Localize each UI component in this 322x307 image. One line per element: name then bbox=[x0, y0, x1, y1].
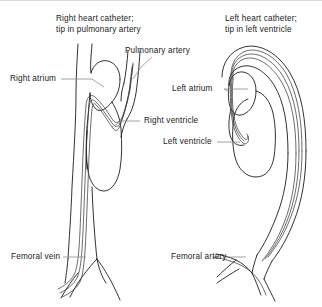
label-left-atrium: Left atrium bbox=[172, 84, 212, 95]
leader-pulmonary-artery-tick bbox=[133, 67, 141, 79]
label-femoral-artery: Femoral artery bbox=[171, 252, 227, 263]
label-right-atrium: Right atrium bbox=[10, 74, 56, 85]
title-left-heart-catheter: Left heart catheter; tip in left ventric… bbox=[225, 14, 297, 36]
label-femoral-vein: Femoral vein bbox=[11, 252, 60, 263]
right-heart-anatomy bbox=[61, 44, 140, 300]
left-heart-anatomy bbox=[216, 46, 306, 301]
leader-right-atrium-tick bbox=[92, 79, 104, 87]
label-right-ventricle: Right ventricle bbox=[144, 116, 198, 127]
label-left-ventricle: Left ventricle bbox=[163, 137, 212, 148]
right-heart-catheter bbox=[58, 63, 133, 297]
title-right-heart-catheter: Right heart catheter; tip in pulmonary a… bbox=[56, 14, 141, 36]
label-pulmonary-artery: Pulmonary artery bbox=[125, 46, 190, 57]
catheterization-diagram: Right heart catheter; tip in pulmonary a… bbox=[0, 0, 322, 307]
leader-pulmonary-artery bbox=[141, 57, 152, 67]
